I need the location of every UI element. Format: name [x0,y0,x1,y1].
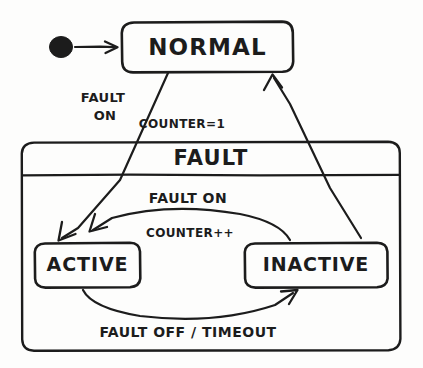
composite-state-outline [22,142,401,351]
transition-action-counter-increment: COUNTER++ [146,226,234,240]
transition-line [274,78,361,238]
state-fault-composite[interactable]: FAULT [22,142,401,351]
state-label-fault: FAULT [174,146,249,170]
transition-line [83,290,293,319]
transition-action-counter-eq-1: COUNTER=1 [139,117,225,131]
state-label-normal: NORMAL [148,34,266,60]
transition-line [75,47,114,48]
arrowhead-icon [281,290,298,304]
initial-pseudostate[interactable] [50,37,73,58]
transition-init-to-normal[interactable] [75,42,118,54]
transition-trigger-line2: ON [94,108,117,123]
state-label-active: ACTIVE [47,253,129,275]
initial-state-dot [50,37,73,58]
state-active[interactable]: ACTIVE [35,243,141,288]
transition-label-normal-to-active: FAULT ON COUNTER=1 [81,90,226,131]
transition-active-to-inactive[interactable]: FAULT OFF / TIMEOUT [83,290,298,340]
state-diagram: NORMAL FAULT ACTIVE INACTIVE FAULT ON CO… [0,0,423,368]
state-normal[interactable]: NORMAL [122,22,293,73]
transition-inactive-to-active[interactable]: FAULT ON COUNTER++ [90,190,291,240]
state-inactive[interactable]: INACTIVE [245,243,388,288]
transition-trigger-line1: FAULT [81,90,126,105]
transition-inactive-to-normal[interactable] [264,75,361,239]
transition-trigger-fault-off-timeout: FAULT OFF / TIMEOUT [99,324,276,340]
composite-name-divider [22,175,399,176]
state-diagram-canvas: NORMAL FAULT ACTIVE INACTIVE FAULT ON CO… [0,0,423,368]
transition-trigger-fault-on: FAULT ON [149,190,227,206]
state-label-inactive: INACTIVE [263,253,370,275]
